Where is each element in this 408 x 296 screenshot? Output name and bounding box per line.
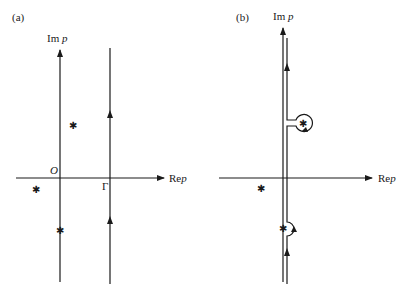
b-deformed-contour	[287, 38, 312, 284]
b-im-text: Im	[273, 10, 285, 22]
b-indent-arrow	[291, 226, 297, 232]
a-imaginary-axis-label: Im p	[47, 33, 67, 44]
a-contour-arrow-upper	[107, 110, 113, 118]
a-real-axis-label: Rep	[169, 173, 187, 184]
b-singularity-on-axis: ✱	[279, 223, 287, 234]
a-re-var: p	[181, 172, 187, 184]
b-singularity-left: ✱	[257, 183, 265, 194]
gamma-label: Γ	[102, 181, 108, 192]
panel-a-label: (a)	[12, 12, 24, 23]
b-re-text: Re	[378, 172, 390, 184]
b-contour-arrow-lower	[284, 248, 290, 256]
b-imaginary-axis-label: Im p	[273, 11, 293, 22]
a-re-text: Re	[169, 172, 181, 184]
b-singularity-keyhole: ✱	[299, 118, 307, 129]
b-real-axis-label: Rep	[378, 173, 396, 184]
a-im-text: Im	[47, 32, 59, 44]
b-contour-arrow-upper	[284, 63, 290, 71]
a-singularity-left: ✱	[32, 184, 40, 195]
b-im-var: p	[288, 10, 294, 22]
contour-diagram	[0, 0, 408, 296]
a-singularity-upper: ✱	[69, 120, 77, 131]
origin-label: O	[50, 165, 58, 176]
panel-b-label: (b)	[236, 12, 249, 23]
a-im-var: p	[62, 32, 68, 44]
a-contour-arrow-lower	[107, 216, 113, 224]
a-singularity-on-axis: ✱	[56, 225, 64, 236]
panel-b	[219, 28, 372, 284]
b-re-var: p	[390, 172, 396, 184]
panel-a	[16, 48, 164, 284]
